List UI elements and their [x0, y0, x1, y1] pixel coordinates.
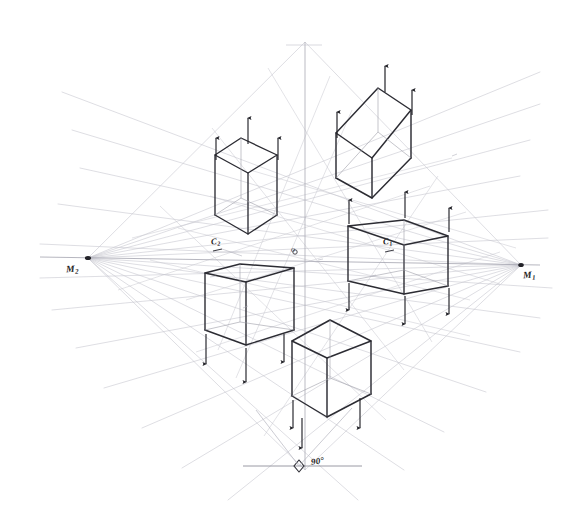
cube-upper-right-hidden-edges — [336, 88, 411, 178]
vanishing-point-right-marker — [518, 263, 524, 267]
cube-upper-right-arrows — [337, 66, 412, 138]
vanishing-point-left-marker — [85, 256, 91, 260]
station-point-label: o — [291, 245, 295, 254]
construction-cross-lines — [118, 68, 516, 436]
construction-envelope — [88, 42, 521, 470]
cube-upper-left — [215, 138, 277, 234]
cube-bottom-center-hidden-edges — [292, 320, 371, 396]
cube-lower-left — [205, 264, 294, 345]
cube-center-right-arrows-up — [349, 192, 449, 232]
measure-point-left-label: C2 — [211, 236, 221, 247]
right-angle-label: 90° — [310, 455, 325, 467]
vanishing-point-right-label: M1 — [523, 270, 536, 281]
measure-point-right-label: C1 — [383, 236, 393, 247]
drawing-sheet: M2 M1 C2 C1 o 90° — [0, 0, 570, 505]
perspective-drawing-canvas — [0, 0, 570, 505]
cube-center-right — [348, 220, 448, 294]
construction-rays-left — [88, 72, 552, 500]
angle-legs — [256, 408, 352, 466]
vanishing-point-left-label: M2 — [66, 264, 79, 275]
cube-lower-left-arrows — [206, 334, 284, 382]
